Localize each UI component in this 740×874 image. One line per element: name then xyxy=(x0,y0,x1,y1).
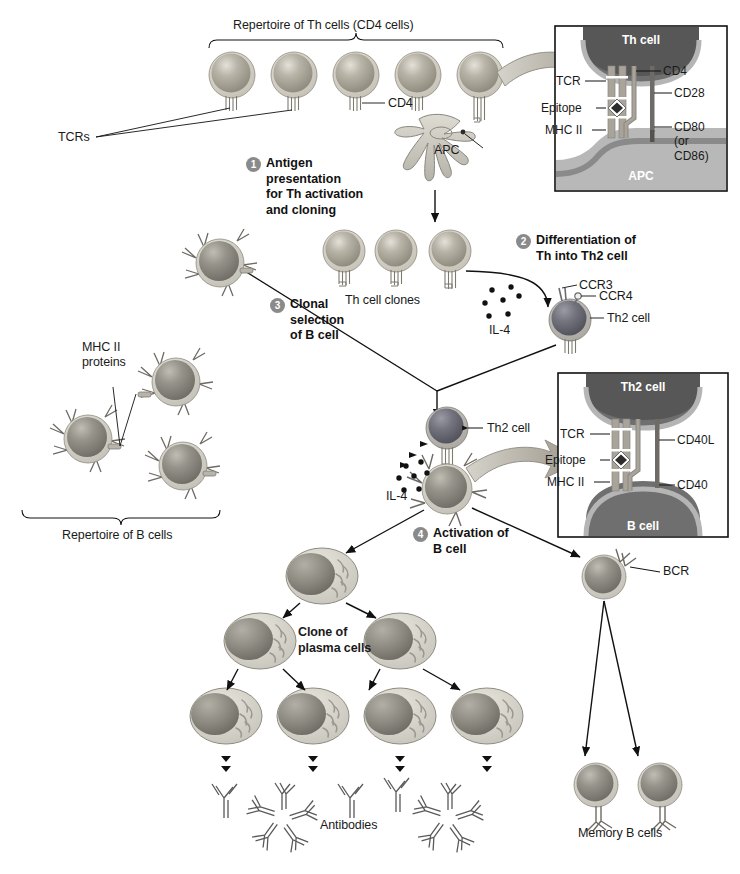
memory-b-cell xyxy=(638,763,682,831)
il4-label-lower: IL-4 xyxy=(386,489,407,504)
inset-top-epitope-label: Epitope xyxy=(541,101,582,115)
ccr4-label: CCR4 xyxy=(599,289,633,304)
svg-text:Th2 cell: Th2 cell xyxy=(621,380,666,394)
inset-top-cd4-label: CD4 xyxy=(663,64,687,78)
th-cell xyxy=(271,52,317,111)
th2-cell-label-center: Th2 cell xyxy=(487,421,530,436)
antibody-monomer xyxy=(384,778,409,812)
inset-top-cd80-label: CD80 (or CD86) xyxy=(674,120,709,163)
plasma-cell xyxy=(190,688,262,744)
b-cell xyxy=(50,405,125,472)
th-clone xyxy=(375,230,417,286)
b-cell xyxy=(138,348,213,415)
antibody-secretion-marks xyxy=(221,756,492,772)
antibody-monomer xyxy=(338,784,363,818)
th-clone xyxy=(429,230,471,289)
th-clone xyxy=(323,230,365,286)
step-3: 3 Clonal selection of B cell xyxy=(270,297,380,344)
step-3-badge: 3 xyxy=(270,298,285,313)
step-1-badge: 1 xyxy=(246,157,261,172)
step-1-text: Antigen presentation for Th activation a… xyxy=(266,156,363,218)
step-4-text: Activation of B cell xyxy=(433,526,509,557)
clone-of-plasma-cells-label: Clone of plasma cells xyxy=(298,625,371,656)
step-4-badge: 4 xyxy=(413,527,428,542)
plasma-cell xyxy=(224,613,296,669)
il4-molecules-upper xyxy=(482,284,521,318)
inset-bottom-cd40l-label: CD40L xyxy=(677,433,714,447)
th-cell xyxy=(209,52,255,111)
step-3-text: Clonal selection of B cell xyxy=(290,297,344,344)
svg-text:B cell: B cell xyxy=(627,519,659,533)
diagram-canvas: Th cell APC xyxy=(0,0,740,874)
inset-bottom-mhc2-label: MHC II xyxy=(547,475,584,489)
antibodies-label: Antibodies xyxy=(320,818,377,833)
plasma-cell xyxy=(451,688,523,744)
inset-top-cd28-label: CD28 xyxy=(674,86,705,100)
mhc2-proteins-label: MHC II proteins xyxy=(82,340,126,370)
antibody-pentamer xyxy=(413,783,486,854)
th-cell xyxy=(333,52,385,111)
step-2-text: Differentiation of Th into Th2 cell xyxy=(536,233,636,264)
step-2: 2 Differentiation of Th into Th2 cell xyxy=(516,233,686,264)
step-2-badge: 2 xyxy=(516,234,531,249)
b-cell-selected xyxy=(182,229,257,296)
plasma-cell xyxy=(286,548,358,604)
inset-bottom-cd40-label: CD40 xyxy=(677,478,708,492)
th-repertoire-label: Repertoire of Th cells (CD4 cells) xyxy=(233,18,413,33)
arrow-th-to-th2 xyxy=(466,271,548,307)
antibody-pentamer xyxy=(247,783,320,854)
immunology-diagram: Th cell APC xyxy=(0,0,740,874)
inset-top-tcr-label: TCR xyxy=(556,74,581,88)
th2-cell-right xyxy=(549,285,604,354)
b-cell xyxy=(145,432,220,499)
cd4-label: CD4 xyxy=(388,96,413,111)
b-repertoire-label: Repertoire of B cells xyxy=(62,528,172,543)
plasma-cell xyxy=(364,688,436,744)
bcr-label: BCR xyxy=(663,564,689,579)
memory-b-parent xyxy=(582,549,660,599)
svg-text:Th cell: Th cell xyxy=(622,33,660,47)
tcrs-label: TCRs xyxy=(58,130,90,145)
memory-b-cell xyxy=(574,763,618,831)
th2-cell-label-right: Th2 cell xyxy=(607,311,650,326)
antibody-monomer xyxy=(212,784,237,818)
plasma-cell xyxy=(277,688,349,744)
inset-bottom-tcr-label: TCR xyxy=(560,427,585,441)
il4-label-upper: IL-4 xyxy=(489,323,510,338)
th-cell-clones xyxy=(323,230,471,289)
inset-bottom-epitope-label: Epitope xyxy=(545,453,586,467)
memory-b-cells-label: Memory B cells xyxy=(578,826,662,841)
mhc2-leader-lines xyxy=(113,387,136,446)
th2-cell-center xyxy=(426,407,483,471)
il4-direction-arrowheads xyxy=(400,441,428,468)
inset-top-mhc2-label: MHC II xyxy=(545,123,582,137)
step-1: 1 Antigen presentation for Th activation… xyxy=(246,156,406,218)
th-cell-engaged xyxy=(457,52,503,122)
svg-text:APC: APC xyxy=(628,169,654,183)
plasma-cell xyxy=(364,613,436,669)
step-4: 4 Activation of B cell xyxy=(413,526,553,557)
b-repertoire-bracket xyxy=(22,510,220,525)
tcr-leader-lines xyxy=(96,108,292,137)
memory-branch-arrows xyxy=(585,601,638,756)
th-repertoire-bracket xyxy=(209,33,503,48)
apc-label: APC xyxy=(434,143,459,158)
